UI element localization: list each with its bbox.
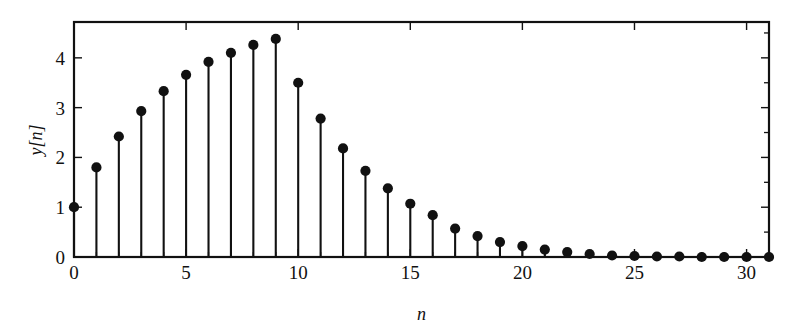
stem-point: [652, 251, 662, 261]
stem-point: [159, 86, 169, 257]
x-tick-label: 15: [401, 262, 420, 283]
stem-marker: [652, 251, 662, 261]
stem-point: [293, 78, 303, 257]
stem-marker: [181, 70, 191, 80]
stem-marker: [562, 247, 572, 257]
stem-marker: [719, 252, 729, 262]
stem-point: [764, 252, 774, 262]
stem-point: [629, 251, 639, 261]
stem-marker: [316, 113, 326, 123]
stem-point: [271, 34, 281, 257]
stem-point: [136, 106, 146, 257]
stem-marker: [540, 244, 550, 254]
stem-marker: [114, 131, 124, 141]
x-tick-label: 30: [737, 262, 756, 283]
plot-frame: [74, 22, 769, 257]
axis-ticks: [74, 22, 769, 257]
stem-point: [540, 244, 550, 257]
stem-marker: [674, 251, 684, 261]
stem-point: [585, 249, 595, 259]
stem-point: [316, 113, 326, 257]
stem-marker: [495, 237, 505, 247]
stem-marker: [203, 57, 213, 67]
y-tick-label: 1: [56, 197, 66, 218]
stem-point: [741, 252, 751, 262]
stem-point: [226, 48, 236, 257]
stem-marker: [585, 249, 595, 259]
stem-marker: [91, 162, 101, 172]
x-tick-label: 5: [181, 262, 191, 283]
stem-marker: [248, 40, 258, 50]
stem-point: [69, 202, 79, 257]
stem-point: [495, 237, 505, 257]
stem-point: [562, 247, 572, 257]
stem-marker: [472, 231, 482, 241]
stem-marker: [360, 166, 370, 176]
stem-point: [181, 70, 191, 257]
stem-marker: [383, 183, 393, 193]
stem-point: [719, 252, 729, 262]
stem-point: [607, 250, 617, 260]
stem-series: [69, 34, 774, 262]
x-tick-label: 10: [289, 262, 308, 283]
stem-marker: [405, 199, 415, 209]
stem-point: [114, 131, 124, 257]
stem-marker: [226, 48, 236, 58]
x-axis-label: n: [417, 304, 426, 324]
stem-marker: [517, 241, 527, 251]
stem-point: [428, 210, 438, 257]
stem-point: [517, 241, 527, 257]
y-tick-label: 2: [56, 147, 66, 168]
stem-marker: [136, 106, 146, 116]
stem-point: [338, 143, 348, 257]
y-tick-label: 4: [56, 48, 66, 69]
x-tick-label: 0: [69, 262, 79, 283]
stem-marker: [450, 224, 460, 234]
stem-point: [91, 162, 101, 257]
stem-marker: [293, 78, 303, 88]
stem-point: [674, 251, 684, 261]
stem-marker: [741, 252, 751, 262]
y-axis-label: y[n]: [26, 125, 46, 158]
stem-point: [697, 252, 707, 262]
x-tick-label: 25: [625, 262, 644, 283]
stem-marker: [338, 143, 348, 153]
stem-marker: [69, 202, 79, 212]
stem-point: [450, 224, 460, 257]
stem-point: [383, 183, 393, 257]
chart-canvas: 05101520253001234 n y[n]: [0, 0, 804, 334]
stem-point: [405, 199, 415, 257]
axis-tick-labels: 05101520253001234: [56, 48, 757, 283]
stem-point: [248, 40, 258, 257]
y-tick-label: 3: [56, 98, 66, 119]
stem-marker: [271, 34, 281, 44]
stem-plot-figure: 05101520253001234 n y[n]: [0, 0, 804, 334]
stem-marker: [428, 210, 438, 220]
stem-marker: [697, 252, 707, 262]
stem-point: [472, 231, 482, 257]
x-tick-label: 20: [513, 262, 532, 283]
stem-marker: [607, 250, 617, 260]
stem-marker: [764, 252, 774, 262]
stem-point: [360, 166, 370, 257]
y-tick-label: 0: [56, 247, 66, 268]
stem-point: [203, 57, 213, 257]
stem-marker: [629, 251, 639, 261]
stem-marker: [159, 86, 169, 96]
